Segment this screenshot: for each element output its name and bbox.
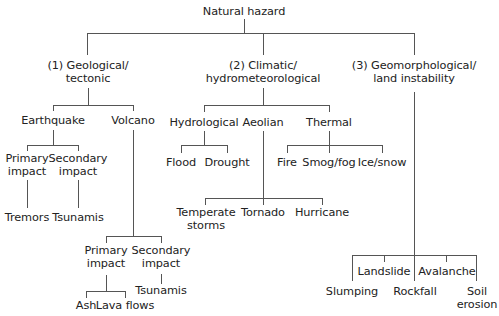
node-label-line1: Secondary [132, 244, 191, 257]
node-climatic-hydrometeorological: (2) Climatic/ hydrometeorological [206, 59, 321, 85]
node-tremors: Tremors [5, 211, 49, 224]
node-ash: Ash [76, 299, 96, 312]
node-aeolian: Aeolian [242, 116, 283, 129]
root-node-natural-hazard: Natural hazard [203, 5, 285, 18]
node-label-line2: impact [6, 165, 49, 178]
node-smog-fog: Smog/fog [302, 156, 355, 169]
node-volcano-secondary-impact: Secondary impact [132, 244, 191, 270]
node-label-line1: Primary [6, 152, 49, 165]
node-volcano-tsunamis: Tsunamis [135, 284, 186, 297]
node-ice-snow: Ice/snow [358, 156, 407, 169]
node-landslide: Landslide [358, 265, 411, 278]
node-volcano: Volcano [111, 114, 154, 127]
node-hurricane: Hurricane [295, 206, 349, 219]
node-label-line2: land instability [352, 72, 476, 85]
node-label-line1: (3) Geomorphological/ [352, 59, 476, 72]
node-label-line2: storms [176, 219, 235, 232]
natural-hazard-tree-diagram: Natural hazard (1) Geological/ tectonic … [0, 0, 499, 316]
node-thermal: Thermal [306, 116, 352, 129]
node-label-line2: impact [85, 257, 128, 270]
node-label-line2: hydrometeorological [206, 72, 321, 85]
node-fire: Fire [277, 156, 297, 169]
node-lava-flows: Lava flows [96, 299, 155, 312]
node-label-line1: (1) Geological/ [47, 59, 128, 72]
node-label-line2: impact [49, 165, 108, 178]
node-label-line2: erosion [457, 298, 498, 311]
node-label-line2: tectonic [47, 72, 128, 85]
node-rockfall: Rockfall [393, 285, 436, 298]
node-label-line1: Temperate [176, 206, 235, 219]
node-tornado: Tornado [241, 206, 285, 219]
node-label-line1: Soil [457, 285, 498, 298]
node-drought: Drought [204, 156, 249, 169]
node-label-line1: Primary [85, 244, 128, 257]
node-hydrological: Hydrological [169, 116, 238, 129]
node-geomorphological-land-instability: (3) Geomorphological/ land instability [352, 59, 476, 85]
node-soil-erosion: Soil erosion [457, 285, 498, 311]
node-label-line2: impact [132, 257, 191, 270]
node-earthquake-primary-impact: Primary impact [6, 152, 49, 178]
node-earthquake-tsunamis: Tsunamis [52, 211, 103, 224]
node-slumping: Slumping [326, 285, 378, 298]
node-avalanche: Avalanche [418, 265, 475, 278]
node-label-line1: Secondary [49, 152, 108, 165]
node-earthquake: Earthquake [21, 114, 85, 127]
node-geological-tectonic: (1) Geological/ tectonic [47, 59, 128, 85]
node-earthquake-secondary-impact: Secondary impact [49, 152, 108, 178]
node-temperate-storms: Temperate storms [176, 206, 235, 232]
node-label-line1: (2) Climatic/ [206, 59, 321, 72]
node-volcano-primary-impact: Primary impact [85, 244, 128, 270]
node-flood: Flood [166, 156, 196, 169]
